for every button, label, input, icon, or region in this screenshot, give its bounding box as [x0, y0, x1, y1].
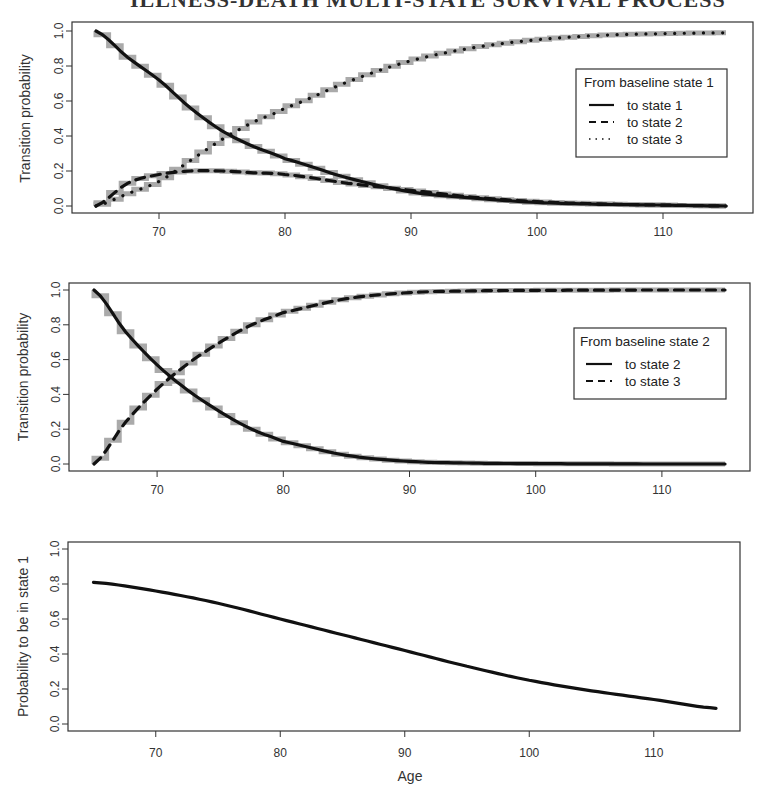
legend: From baseline state 2 to state 2 to stat… — [574, 328, 726, 399]
step-function — [96, 171, 726, 206]
x-tick-label: 100 — [519, 746, 539, 760]
x-axis: 708090100110 — [149, 731, 664, 760]
y-tick-label: 1.0 — [48, 540, 62, 557]
x-tick-label: 90 — [403, 483, 417, 497]
y-tick-label: 0.8 — [49, 316, 63, 333]
y-tick-label: 0.4 — [52, 127, 66, 144]
y-tick-label: 0.0 — [49, 455, 63, 472]
x-axis: 708090100110 — [152, 213, 673, 239]
x-axis-label: Age — [398, 768, 423, 784]
y-tick-label: 0.6 — [52, 92, 66, 109]
plot-frame — [68, 542, 740, 731]
y-axis: 0.00.20.40.60.81.0 — [49, 281, 69, 472]
y-axis: 0.00.20.40.60.81.0 — [52, 22, 72, 214]
legend-item: to state 3 — [627, 132, 683, 147]
y-tick-label: 0.4 — [49, 386, 63, 403]
curve-solid — [94, 582, 717, 708]
y-tick-label: 0.0 — [52, 197, 66, 214]
legend: From baseline state 1 to state 1 to stat… — [576, 69, 727, 157]
legend-item: to state 2 — [627, 115, 683, 130]
x-tick-label: 110 — [644, 746, 663, 760]
y-tick-label: 0.8 — [52, 57, 66, 74]
legend-item: to state 3 — [625, 374, 681, 389]
legend-item: to state 2 — [625, 357, 681, 372]
y-tick-label: 0.6 — [48, 610, 62, 627]
y-tick-label: 0.8 — [48, 575, 62, 592]
panel-from-state-2: 0.00.20.40.60.81.0 708090100110 Transiti… — [15, 281, 750, 497]
x-tick-label: 100 — [527, 225, 547, 239]
x-tick-label: 80 — [277, 483, 291, 497]
plot-series — [94, 582, 717, 708]
legend-title: From baseline state 1 — [584, 75, 714, 90]
x-tick-label: 70 — [150, 483, 164, 497]
panel-probability-state-1: 0.00.20.40.60.81.0 708090100110 Probabil… — [15, 540, 740, 784]
y-tick-label: 0.2 — [48, 680, 62, 697]
legend-title: From baseline state 2 — [580, 334, 710, 349]
y-axis-label: Transition probability — [15, 313, 31, 442]
y-tick-label: 0.4 — [48, 645, 62, 662]
x-tick-label: 100 — [526, 483, 546, 497]
panel-from-state-1: 0.00.20.40.60.81.0 708090100110 Transiti… — [17, 22, 753, 239]
x-tick-label: 90 — [404, 225, 418, 239]
x-axis: 708090100110 — [150, 471, 671, 497]
x-tick-label: 70 — [149, 746, 163, 760]
x-tick-label: 70 — [152, 225, 166, 239]
legend-item: to state 1 — [627, 98, 683, 113]
y-tick-label: 0.2 — [52, 162, 66, 179]
y-tick-label: 0.0 — [48, 715, 62, 732]
figure: 0.00.20.40.60.81.0 708090100110 Transiti… — [0, 0, 768, 788]
x-tick-label: 80 — [274, 746, 288, 760]
x-tick-label: 80 — [278, 225, 292, 239]
x-tick-label: 110 — [652, 483, 671, 497]
x-tick-label: 110 — [653, 225, 672, 239]
y-tick-label: 1.0 — [49, 281, 63, 298]
y-axis-label: Probability to be in state 1 — [15, 556, 31, 717]
y-axis: 0.00.20.40.60.81.0 — [48, 540, 68, 732]
y-tick-label: 1.0 — [52, 22, 66, 39]
y-tick-label: 0.6 — [49, 351, 63, 368]
x-tick-label: 90 — [398, 746, 412, 760]
y-axis-label: Transition probability — [17, 54, 33, 183]
y-tick-label: 0.2 — [49, 421, 63, 438]
